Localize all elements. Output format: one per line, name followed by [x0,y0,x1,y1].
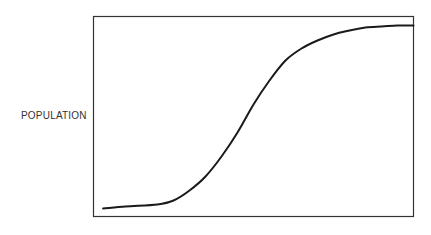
population-curve [103,25,413,208]
plot-frame [94,17,414,217]
chart-plot [0,0,431,235]
